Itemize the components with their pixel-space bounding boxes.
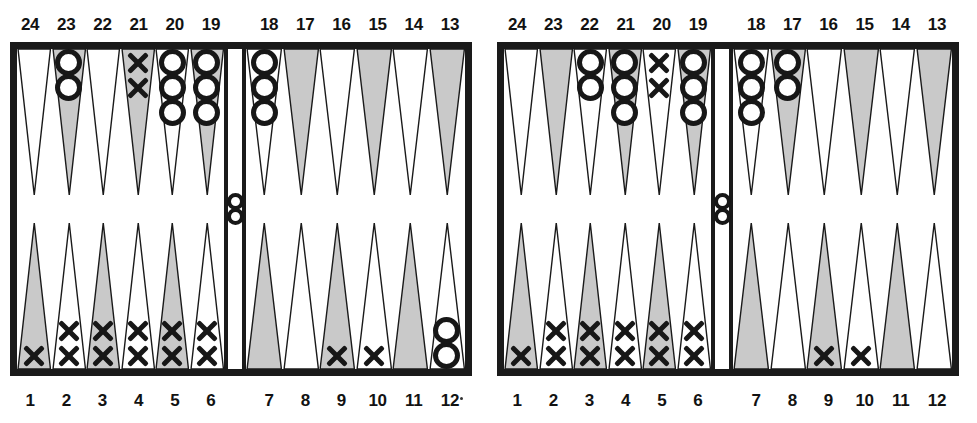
checker-o[interactable]	[433, 342, 460, 369]
point-13[interactable]	[916, 49, 953, 195]
checker-o[interactable]	[738, 99, 765, 126]
point-5[interactable]	[642, 223, 677, 369]
point-17[interactable]	[283, 49, 320, 195]
point-17[interactable]	[770, 49, 807, 195]
checker-x[interactable]	[124, 317, 151, 344]
point-5[interactable]	[155, 223, 190, 369]
point-18[interactable]	[246, 49, 283, 195]
point-7[interactable]	[246, 223, 283, 369]
checker-x[interactable]	[324, 342, 351, 369]
point-2[interactable]	[52, 223, 87, 369]
checker-o[interactable]	[774, 49, 801, 76]
checker-x[interactable]	[193, 317, 220, 344]
point-12[interactable]	[916, 223, 953, 369]
bar[interactable]	[224, 49, 246, 369]
checker-x[interactable]	[611, 342, 638, 369]
checker-o[interactable]	[193, 99, 220, 126]
checker-x[interactable]	[577, 342, 604, 369]
point-13[interactable]	[429, 49, 466, 195]
checker-o[interactable]	[714, 208, 731, 225]
point-6[interactable]	[677, 223, 712, 369]
checker-o[interactable]	[159, 99, 186, 126]
point-10[interactable]	[356, 223, 393, 369]
checker-x[interactable]	[680, 342, 707, 369]
point-8[interactable]	[770, 223, 807, 369]
checker-x[interactable]	[55, 317, 82, 344]
checker-x[interactable]	[542, 342, 569, 369]
checker-o[interactable]	[159, 74, 186, 101]
point-8[interactable]	[283, 223, 320, 369]
point-23[interactable]	[52, 49, 87, 195]
point-7[interactable]	[733, 223, 770, 369]
checker-o[interactable]	[55, 74, 82, 101]
checker-x[interactable]	[124, 342, 151, 369]
checker-x[interactable]	[646, 74, 673, 101]
checker-x[interactable]	[360, 342, 387, 369]
checker-x[interactable]	[90, 342, 117, 369]
point-1[interactable]	[17, 223, 52, 369]
point-21[interactable]	[608, 49, 643, 195]
checker-o[interactable]	[55, 49, 82, 76]
checker-o[interactable]	[433, 317, 460, 344]
point-15[interactable]	[843, 49, 880, 195]
point-3[interactable]	[573, 223, 608, 369]
point-21[interactable]	[121, 49, 156, 195]
checker-x[interactable]	[124, 49, 151, 76]
checker-x[interactable]	[159, 342, 186, 369]
checker-o[interactable]	[577, 49, 604, 76]
checker-o[interactable]	[159, 49, 186, 76]
checker-x[interactable]	[611, 317, 638, 344]
point-9[interactable]	[319, 223, 356, 369]
checker-x[interactable]	[124, 74, 151, 101]
checker-x[interactable]	[646, 49, 673, 76]
checker-x[interactable]	[680, 317, 707, 344]
point-24[interactable]	[17, 49, 52, 195]
checker-x[interactable]	[811, 342, 838, 369]
checker-x[interactable]	[90, 317, 117, 344]
point-9[interactable]	[806, 223, 843, 369]
point-14[interactable]	[879, 49, 916, 195]
point-15[interactable]	[356, 49, 393, 195]
point-2[interactable]	[539, 223, 574, 369]
checker-o[interactable]	[251, 49, 278, 76]
point-4[interactable]	[121, 223, 156, 369]
point-12[interactable]	[429, 223, 466, 369]
checker-x[interactable]	[159, 317, 186, 344]
bar[interactable]	[711, 49, 733, 369]
checker-o[interactable]	[738, 74, 765, 101]
point-11[interactable]	[879, 223, 916, 369]
checker-o[interactable]	[680, 49, 707, 76]
checker-x[interactable]	[577, 317, 604, 344]
checker-x[interactable]	[193, 342, 220, 369]
point-16[interactable]	[806, 49, 843, 195]
checker-o[interactable]	[738, 49, 765, 76]
point-1[interactable]	[504, 223, 539, 369]
point-22[interactable]	[573, 49, 608, 195]
checker-x[interactable]	[508, 342, 535, 369]
checker-x[interactable]	[55, 342, 82, 369]
checker-x[interactable]	[542, 317, 569, 344]
checker-x[interactable]	[646, 317, 673, 344]
point-19[interactable]	[677, 49, 712, 195]
point-14[interactable]	[392, 49, 429, 195]
checker-o[interactable]	[774, 74, 801, 101]
checker-o[interactable]	[193, 74, 220, 101]
point-20[interactable]	[642, 49, 677, 195]
checker-o[interactable]	[611, 74, 638, 101]
checker-o[interactable]	[680, 74, 707, 101]
checker-o[interactable]	[680, 99, 707, 126]
checker-x[interactable]	[847, 342, 874, 369]
checker-o[interactable]	[227, 208, 244, 225]
checker-o[interactable]	[251, 74, 278, 101]
point-6[interactable]	[190, 223, 225, 369]
checker-x[interactable]	[646, 342, 673, 369]
point-24[interactable]	[504, 49, 539, 195]
checker-o[interactable]	[611, 99, 638, 126]
checker-x[interactable]	[21, 342, 48, 369]
point-10[interactable]	[843, 223, 880, 369]
point-18[interactable]	[733, 49, 770, 195]
checker-o[interactable]	[577, 74, 604, 101]
point-22[interactable]	[86, 49, 121, 195]
point-3[interactable]	[86, 223, 121, 369]
point-23[interactable]	[539, 49, 574, 195]
